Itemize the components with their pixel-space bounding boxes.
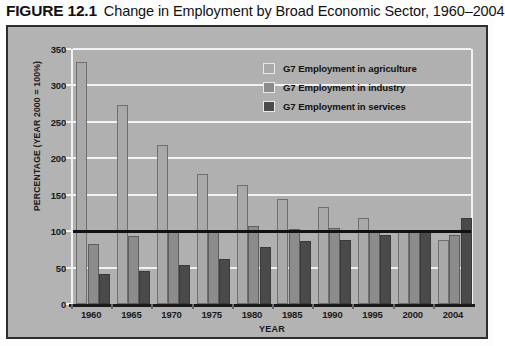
x-tick-label-1995: 1995 <box>362 309 382 320</box>
legend-label-2: G7 Employment in services <box>283 101 406 112</box>
page-title: Change in Employment by Broad Economic S… <box>104 3 505 19</box>
chart-legend: G7 Employment in agricultureG7 Employmen… <box>263 56 478 121</box>
bar-1970-series-0 <box>157 145 168 304</box>
legend-item-0: G7 Employment in agriculture <box>263 60 478 76</box>
y-tick-label-200: 200 <box>51 153 66 164</box>
figure-caption: FIGURE 12.1Change in Employment by Broad… <box>6 2 490 22</box>
legend-label-0: G7 Employment in agriculture <box>283 63 417 74</box>
bar-1960-series-0 <box>76 62 87 304</box>
bar-1995-series-2 <box>380 235 391 304</box>
bar-1980-series-1 <box>248 226 259 304</box>
y-tick-label-100: 100 <box>51 226 66 237</box>
bar-2000-series-1 <box>409 231 420 304</box>
x-tick-label-2000: 2000 <box>403 309 423 320</box>
x-tick-label-1970: 1970 <box>161 309 181 320</box>
bar-2004-series-0 <box>438 240 449 304</box>
bar-1985-series-0 <box>277 199 288 304</box>
x-axis-label: YEAR <box>71 324 473 334</box>
figure-number: FIGURE 12.1 <box>6 2 97 19</box>
bar-1965-series-2 <box>139 271 150 305</box>
bar-1990-series-2 <box>340 240 351 304</box>
x-tick-label-1960: 1960 <box>81 309 101 320</box>
bar-1980-series-0 <box>237 185 248 304</box>
y-tick-label-300: 300 <box>51 80 66 91</box>
legend-swatch-icon-2 <box>263 101 275 112</box>
bar-2000-series-0 <box>398 231 409 304</box>
x-tick-label-1985: 1985 <box>282 309 302 320</box>
y-tick-label-50: 50 <box>56 262 66 273</box>
bar-2000-series-2 <box>420 231 431 304</box>
bar-2004-series-1 <box>449 235 460 304</box>
x-tick-label-2004: 2004 <box>443 309 463 320</box>
bar-1990-series-1 <box>329 228 340 304</box>
legend-item-2: G7 Employment in services <box>263 98 478 114</box>
y-tick-label-350: 350 <box>51 44 66 55</box>
bar-1965-series-0 <box>117 105 128 304</box>
bar-1965-series-1 <box>128 236 139 304</box>
y-tick-label-150: 150 <box>51 189 66 200</box>
bar-1975-series-2 <box>219 259 230 304</box>
x-axis-ticks: 1960196519701975198019851990199520002004 <box>71 309 473 323</box>
y-axis-ticks: 050100150200250300350 <box>28 49 66 304</box>
bar-1985-series-1 <box>289 229 300 304</box>
legend-swatch-icon-0 <box>263 63 275 74</box>
bar-1980-series-2 <box>260 247 271 304</box>
bar-1970-series-2 <box>179 265 190 304</box>
bar-1995-series-1 <box>369 231 380 304</box>
legend-swatch-icon-1 <box>263 82 275 93</box>
bar-1975-series-0 <box>197 174 208 304</box>
bar-1970-series-1 <box>168 230 179 304</box>
bar-1960-series-2 <box>99 274 110 304</box>
x-tick-label-1990: 1990 <box>322 309 342 320</box>
legend-item-1: G7 Employment in industry <box>263 79 478 95</box>
bar-1990-series-0 <box>318 207 329 304</box>
bar-1960-series-1 <box>88 244 99 304</box>
y-tick-label-250: 250 <box>51 116 66 127</box>
x-tick-label-1975: 1975 <box>202 309 222 320</box>
x-tick-label-1965: 1965 <box>121 309 141 320</box>
x-tick-label-1980: 1980 <box>242 309 262 320</box>
bar-1985-series-2 <box>300 241 311 304</box>
chart-frame: PERCENTAGE (YEAR 2000 = 100%) 0501001502… <box>6 25 488 339</box>
legend-label-1: G7 Employment in industry <box>283 82 405 93</box>
reference-line-100 <box>73 230 471 233</box>
bar-1975-series-1 <box>208 230 219 304</box>
